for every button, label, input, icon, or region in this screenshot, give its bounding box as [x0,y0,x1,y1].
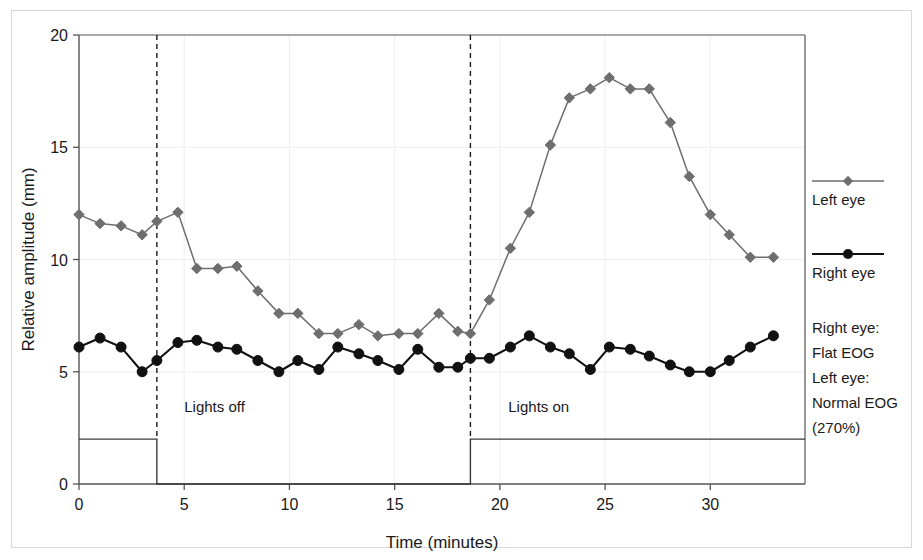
data-point [394,365,404,375]
data-point [192,263,202,273]
data-point [74,342,84,352]
data-point [95,218,105,228]
data-point [394,328,404,338]
y-tick-label: 0 [59,476,68,493]
data-point [253,356,263,366]
data-point [524,207,534,217]
data-point [354,349,364,359]
data-point [604,342,614,352]
data-point [768,331,778,341]
series-right-eye [74,331,778,377]
data-point [465,328,475,338]
data-point [192,335,202,345]
data-point [505,342,515,352]
y-tick-label: 10 [50,252,68,269]
data-point [665,360,675,370]
data-point [604,72,614,82]
data-point [74,209,84,219]
data-point [644,84,654,94]
note-line-0: Right eye: [812,319,880,336]
y-tick-label: 20 [50,27,68,44]
chart-figure: 05101520051015202530Time (minutes)Relati… [0,0,923,560]
stimulus-trace [79,439,805,484]
data-point [545,342,555,352]
legend-marker-0 [843,176,853,186]
data-point [768,252,778,262]
legend-label-1: Right eye [812,264,875,281]
data-point [585,84,595,94]
x-axis-title: Time (minutes) [386,533,499,552]
data-point [333,342,343,352]
x-tick-label: 30 [701,496,719,513]
data-point [314,365,324,375]
note-line-2: Left eye: [812,369,870,386]
x-tick-label: 0 [75,496,84,513]
data-point [213,342,223,352]
x-tick-label: 25 [596,496,614,513]
data-point [173,207,183,217]
data-point [152,356,162,366]
annotation-label: Lights on [508,398,569,415]
data-point [545,140,555,150]
data-point [705,367,715,377]
x-tick-label: 5 [180,496,189,513]
data-point [524,331,534,341]
data-point [484,295,494,305]
y-tick-label: 15 [50,139,68,156]
data-point [625,344,635,354]
x-tick-label: 20 [491,496,509,513]
data-point [564,349,574,359]
data-point [116,342,126,352]
series-left-eye [74,72,779,341]
legend-marker-1 [843,249,853,259]
annotation-label: Lights off [184,398,245,415]
legend-label-0: Left eye [812,191,865,208]
eog-line-chart: 05101520051015202530Time (minutes)Relati… [0,0,923,560]
x-tick-label: 15 [386,496,404,513]
data-point [724,356,734,366]
data-point [665,117,675,127]
data-point [274,367,284,377]
note-line-3: Normal EOG [812,394,898,411]
data-point [173,338,183,348]
y-axis-title: Relative amplitude (mm) [19,167,38,351]
y-tick-label: 5 [59,364,68,381]
data-point [373,331,383,341]
data-point [745,342,755,352]
series-line [79,78,773,336]
data-point [137,367,147,377]
data-point [95,333,105,343]
data-point [505,243,515,253]
note-line-1: Flat EOG [812,344,875,361]
data-point [684,171,694,181]
data-point [465,353,475,363]
data-point [484,353,494,363]
data-point [644,351,654,361]
data-point [684,367,694,377]
data-point [354,319,364,329]
data-point [585,365,595,375]
data-point [116,221,126,231]
data-point [413,344,423,354]
data-point [564,93,574,103]
data-point [434,362,444,372]
data-point [333,328,343,338]
data-point [213,263,223,273]
data-point [453,362,463,372]
data-point [625,84,635,94]
x-tick-label: 10 [281,496,299,513]
data-point [373,356,383,366]
data-point [232,344,242,354]
note-line-4: (270%) [812,419,860,436]
data-point [293,356,303,366]
